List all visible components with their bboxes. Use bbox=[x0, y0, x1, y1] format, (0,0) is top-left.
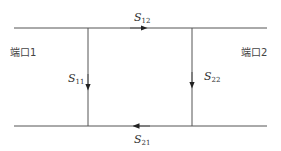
port2-label: 端口2 bbox=[241, 46, 267, 58]
port1-label: 端口1 bbox=[10, 46, 36, 58]
signal-flow-graph: S12 S21 S11 S22 端口1 端口2 bbox=[0, 0, 281, 151]
s12-label: S12 bbox=[134, 11, 150, 25]
s22-label: S22 bbox=[204, 70, 220, 84]
s11-label: S11 bbox=[68, 72, 84, 86]
s21-label: S21 bbox=[134, 133, 150, 147]
